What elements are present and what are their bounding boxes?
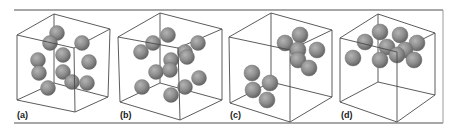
- particle-sphere: [43, 36, 58, 51]
- particle-sphere: [372, 52, 388, 68]
- particle-sphere: [392, 27, 408, 43]
- particle-sphere: [292, 27, 308, 43]
- particle-sphere: [357, 34, 373, 50]
- particle-sphere: [82, 55, 97, 70]
- particle-sphere: [161, 28, 176, 43]
- particle-sphere: [406, 52, 422, 68]
- panel-label: (b): [120, 110, 132, 120]
- panel-a: (a): [17, 14, 110, 120]
- particle-sphere: [180, 50, 195, 65]
- panel-c: (c): [229, 13, 332, 122]
- cube-edge: [340, 82, 378, 102]
- particle-sphere: [31, 53, 46, 68]
- panel-label: (a): [17, 110, 28, 120]
- particle-sphere: [245, 82, 261, 98]
- panel-d: (d): [340, 14, 435, 122]
- particle-sphere: [32, 66, 47, 81]
- particle-sphere: [259, 92, 275, 108]
- cube-edge: [180, 100, 222, 120]
- cube-edge: [75, 97, 108, 112]
- particle-sphere: [191, 36, 206, 51]
- particle-sphere: [244, 65, 260, 81]
- cube-edge: [118, 13, 160, 37]
- particle-sphere: [41, 81, 56, 96]
- particle-sphere: [301, 60, 317, 76]
- particle-sphere: [372, 24, 388, 40]
- cube-edge: [229, 13, 271, 37]
- particle-sphere: [56, 48, 71, 63]
- cube-edge: [290, 97, 332, 122]
- particle-sphere: [134, 45, 149, 60]
- particle-sphere: [65, 75, 80, 90]
- particle-sphere: [178, 80, 193, 95]
- figure-clustering-panels: (a)(b)(c)(d): [0, 0, 453, 131]
- particle-sphere: [309, 42, 325, 58]
- particle-sphere: [149, 65, 164, 80]
- particle-sphere: [135, 80, 150, 95]
- cube-edge: [17, 14, 54, 35]
- panel-label: (d): [341, 110, 353, 120]
- panel-b: (b): [118, 13, 222, 120]
- particle-sphere: [192, 71, 207, 86]
- particle-sphere: [164, 88, 179, 103]
- particle-cluster: [134, 28, 207, 103]
- cube-edge: [397, 95, 435, 122]
- panel-label: (c): [230, 110, 241, 120]
- particle-sphere: [163, 63, 178, 78]
- particle-cluster: [345, 24, 425, 68]
- particle-sphere: [80, 76, 95, 91]
- particle-sphere: [262, 75, 278, 91]
- particle-sphere: [345, 50, 361, 66]
- particle-sphere: [75, 36, 90, 51]
- figure-panels: (a)(b)(c)(d): [17, 13, 435, 122]
